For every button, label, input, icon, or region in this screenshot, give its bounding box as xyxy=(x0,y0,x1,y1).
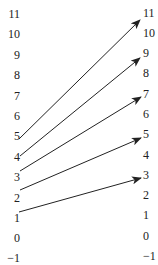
arrow-3-to-7 xyxy=(20,97,141,171)
arrow-4-to-9 xyxy=(20,58,140,156)
arrow-5-to-11 xyxy=(19,20,140,139)
arrow-2-to-5 xyxy=(20,138,141,190)
